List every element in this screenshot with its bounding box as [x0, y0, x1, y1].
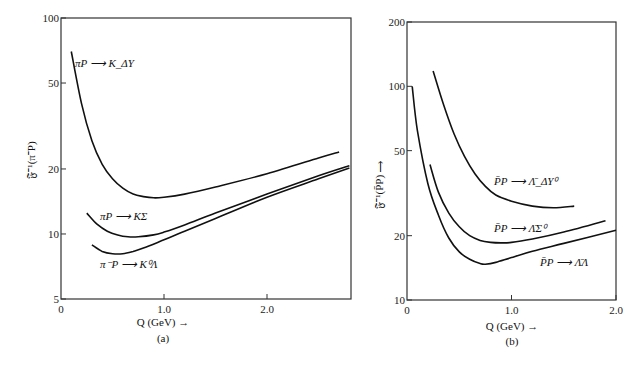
- y-tick-label: 20: [48, 163, 60, 175]
- figure: 1005020105 01.02.0 𝔉⁻¹(π⁻P) Q (GeV) → (a…: [0, 0, 623, 367]
- panel-a-y-ticks: 1005020105: [43, 12, 67, 305]
- y-tick-label: 100: [389, 80, 406, 92]
- panel-a-curves: [71, 52, 349, 255]
- y-tick-label: 50: [394, 145, 406, 157]
- series-curve: [71, 52, 339, 198]
- x-tick-label: 2.0: [260, 303, 274, 315]
- panel-b-label: (b): [506, 335, 519, 348]
- y-tick-label: 20: [394, 230, 406, 242]
- series-curve: [433, 71, 574, 208]
- series-label-lambda-dy0: P̄P ⟶ Λ̄_ΔY⁰: [493, 175, 559, 187]
- y-tick-label: 100: [43, 12, 60, 24]
- panel-a-y-axis-title: 𝔉⁻¹(π⁻P): [25, 141, 38, 179]
- x-tick-label: 1.0: [157, 303, 171, 315]
- series-label-lambda-lambda: P̄P ⟶ Λ̄Λ: [539, 256, 588, 268]
- y-tick-label: 50: [48, 77, 60, 89]
- series-label-k0lambda: π⁻P ⟶ K⁰Λ: [100, 258, 158, 270]
- series-curve: [87, 166, 350, 237]
- series-label-ksigma: πP ⟶ KΣ: [100, 210, 148, 222]
- panel-a-label: (a): [157, 332, 170, 345]
- series-label-lambda-sigma0: P̄P ⟶ Λ̄Σ⁰: [493, 222, 548, 234]
- panel-b: 200100502010 01.02.0 𝔉⁻¹(P̄P) ⟶ Q (GeV) …: [373, 16, 623, 348]
- x-tick-label: 0: [58, 303, 64, 315]
- x-tick-label: 2.0: [609, 304, 623, 316]
- panel-b-y-axis-title: 𝔉⁻¹(P̄P) ⟶: [373, 161, 386, 209]
- x-tick-label: 1.0: [505, 304, 519, 316]
- panel-b-y-ticks: 200100502010: [389, 16, 413, 306]
- y-tick-label: 10: [48, 228, 60, 240]
- panel-a: 1005020105 01.02.0 𝔉⁻¹(π⁻P) Q (GeV) → (a…: [25, 12, 351, 345]
- panel-b-x-ticks: 01.02.0: [404, 295, 623, 316]
- series-label-kdy: πP ⟶ K_ΔY: [75, 57, 136, 69]
- panel-b-x-axis-title: Q (GeV) →: [486, 320, 539, 333]
- panel-a-x-ticks: 01.02.0: [58, 294, 274, 315]
- panel-b-curves: [412, 71, 616, 264]
- x-tick-label: 0: [404, 304, 410, 316]
- panel-a-x-axis-title: Q (GeV) →: [137, 316, 190, 329]
- y-tick-label: 200: [389, 16, 406, 28]
